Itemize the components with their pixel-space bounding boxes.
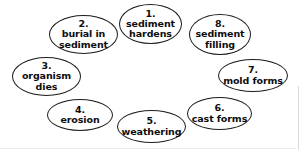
bottom-edge-divider bbox=[0, 148, 296, 149]
node-2-burial-in-sediment[interactable]: 2. burial in sediment bbox=[49, 15, 118, 54]
node-8-label-line2: filling bbox=[205, 40, 235, 50]
right-edge-divider bbox=[298, 86, 299, 150]
node-6-label-line1: cast forms bbox=[192, 114, 247, 124]
node-1-sediment-hardens[interactable]: 1. sediment hardens bbox=[119, 4, 182, 44]
node-7-label-line1: mold forms bbox=[223, 76, 283, 86]
node-4-label-line1: erosion bbox=[60, 115, 99, 125]
node-7-mold-forms[interactable]: 7. mold forms bbox=[218, 59, 288, 92]
node-5-weathering[interactable]: 5. weathering bbox=[117, 110, 186, 143]
node-5-number: 5. bbox=[146, 116, 156, 126]
node-6-cast-forms[interactable]: 6. cast forms bbox=[187, 97, 252, 130]
node-5-label-line1: weathering bbox=[122, 127, 182, 137]
node-8-sediment-filling[interactable]: 8. sediment filling bbox=[189, 14, 251, 55]
node-2-label-line2: sediment bbox=[59, 40, 108, 50]
node-3-organism-dies[interactable]: 3. organism dies bbox=[12, 57, 81, 96]
node-4-erosion[interactable]: 4. erosion bbox=[47, 99, 113, 131]
node-1-label-line2: hardens bbox=[129, 29, 172, 39]
node-6-number: 6. bbox=[214, 103, 224, 113]
cycle-diagram: 1. sediment hardens 2. burial in sedimen… bbox=[0, 0, 304, 150]
node-3-label-line2: dies bbox=[36, 82, 58, 92]
node-7-number: 7. bbox=[248, 65, 258, 75]
